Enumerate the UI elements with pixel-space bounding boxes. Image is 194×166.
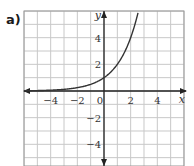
y-axis-down-arrow-icon xyxy=(101,159,107,166)
y-axis-label: y xyxy=(94,9,102,22)
x-tick-label: −4 xyxy=(43,95,58,106)
y-tick-label: 2 xyxy=(95,59,101,70)
y-tick-label: −4 xyxy=(86,139,101,150)
x-axis-label: x xyxy=(179,93,186,106)
x-tick-label: 4 xyxy=(154,95,160,106)
y-tick-label: −2 xyxy=(86,113,101,124)
exponential-graph: −4−202442−2−4xy xyxy=(0,0,194,166)
y-tick-label: 4 xyxy=(95,33,101,44)
y-axis-arrow-icon xyxy=(101,11,107,18)
x-tick-label: 2 xyxy=(127,95,133,106)
x-tick-label: 0 xyxy=(97,95,103,106)
x-tick-label: −2 xyxy=(70,95,85,106)
